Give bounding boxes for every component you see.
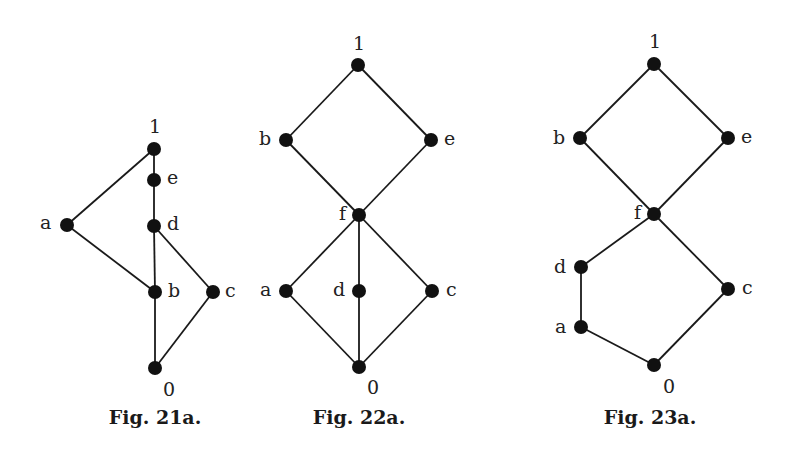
edge-b-f [580, 138, 654, 214]
edge-c-0 [155, 292, 213, 368]
node-b [148, 285, 162, 299]
node-a [279, 284, 293, 298]
node-label-0: 0 [367, 378, 379, 397]
edge-c-0 [654, 289, 728, 365]
edge-d-c [154, 226, 213, 292]
node-e [147, 173, 161, 187]
edge-a-b [67, 225, 155, 292]
edge-f-a [286, 215, 359, 291]
edge-1-a [67, 149, 154, 225]
node-label-1: 1 [149, 117, 161, 136]
figure-fig21a [60, 142, 220, 375]
edge-e-f [359, 140, 431, 215]
node-1 [647, 57, 661, 71]
node-c [206, 285, 220, 299]
edge-f-c [654, 214, 728, 289]
node-label-0: 0 [163, 380, 175, 399]
edge-1-e [654, 64, 728, 138]
node-1 [147, 142, 161, 156]
edge-f-c [359, 215, 432, 291]
lattice-diagrams: 1edabc0Fig. 21a.1befadc0Fig. 22a.1befdca… [0, 0, 790, 462]
node-0 [352, 360, 366, 374]
node-1 [351, 58, 365, 72]
node-label-1: 1 [649, 32, 661, 51]
node-f [352, 208, 366, 222]
node-label-a: a [40, 213, 51, 232]
node-a [60, 218, 74, 232]
edge-e-f [654, 138, 728, 214]
node-b [279, 133, 293, 147]
node-d [574, 260, 588, 274]
node-label-b: b [168, 281, 180, 300]
node-label-e: e [167, 168, 178, 187]
node-0 [148, 361, 162, 375]
node-label-f: f [339, 204, 346, 223]
node-label-0: 0 [663, 377, 675, 396]
edge-c-0 [359, 291, 432, 367]
node-label-b: b [259, 129, 271, 148]
edge-b-f [286, 140, 359, 215]
node-label-1: 1 [353, 34, 365, 53]
edge-1-b [580, 64, 654, 138]
edge-d-b [154, 226, 155, 292]
edge-1-b [286, 65, 358, 140]
node-f [647, 207, 661, 221]
node-a [574, 320, 588, 334]
node-label-f: f [634, 203, 641, 222]
node-label-a: a [260, 280, 271, 299]
edge-a-0 [581, 327, 654, 365]
edge-1-e [358, 65, 431, 140]
node-c [721, 282, 735, 296]
node-0 [647, 358, 661, 372]
edge-a-0 [286, 291, 359, 367]
node-c [425, 284, 439, 298]
figure-caption: Fig. 22a. [313, 408, 406, 427]
figure-caption: Fig. 21a. [109, 408, 202, 427]
edge-f-d [581, 214, 654, 267]
figure-fig22a [279, 58, 439, 374]
node-label-d: d [167, 214, 179, 233]
node-label-c: c [446, 280, 457, 299]
node-label-c: c [225, 281, 236, 300]
node-label-e: e [741, 127, 752, 146]
node-label-e: e [444, 129, 455, 148]
node-b [573, 131, 587, 145]
node-label-d: d [554, 257, 566, 276]
node-d [147, 219, 161, 233]
node-label-c: c [742, 278, 753, 297]
node-e [721, 131, 735, 145]
node-label-b: b [553, 128, 565, 147]
node-e [424, 133, 438, 147]
figure-caption: Fig. 23a. [604, 408, 697, 427]
node-label-d: d [333, 280, 345, 299]
node-label-a: a [555, 317, 566, 336]
figure-fig23a [573, 57, 735, 372]
node-d [352, 284, 366, 298]
